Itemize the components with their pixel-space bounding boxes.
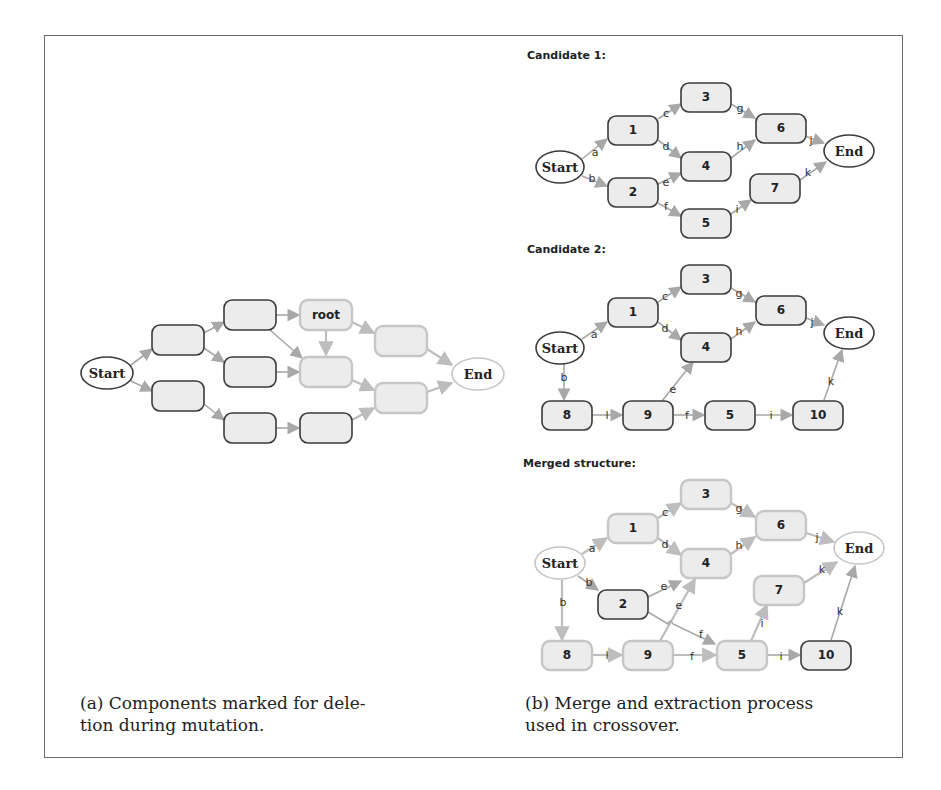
node-c2-marked: [300, 357, 352, 387]
c2-node-9-label: 9: [644, 408, 652, 422]
m-node-3-label: 3: [702, 487, 710, 501]
c1-node-2-label: 2: [629, 185, 637, 199]
svg-text:l: l: [605, 649, 608, 662]
svg-text:a: a: [592, 146, 599, 159]
svg-text:k: k: [837, 605, 844, 618]
svg-text:g: g: [737, 102, 744, 115]
m-node-9-label: 9: [644, 648, 652, 662]
svg-text:a: a: [589, 542, 596, 555]
candidate2-graph: Candidate 2: a b c d e l f i g h j k Sta…: [527, 243, 874, 430]
m-node-1-label: 1: [629, 521, 637, 535]
svg-text:e: e: [670, 383, 677, 396]
m-node-2-label: 2: [619, 597, 627, 611]
svg-text:j: j: [809, 316, 813, 329]
node-b1: [224, 300, 276, 330]
svg-text:j: j: [814, 531, 818, 544]
start-label: Start: [89, 366, 126, 381]
c1-node-1-label: 1: [629, 123, 637, 137]
svg-text:d: d: [662, 322, 669, 335]
svg-text:i: i: [735, 203, 738, 216]
c1-node-5-label: 5: [702, 216, 710, 230]
svg-text:b: b: [560, 596, 567, 609]
merged-graph: Merged structure: a b b c d e e f l f i …: [523, 457, 884, 670]
svg-text:h: h: [736, 539, 743, 552]
c2-node-10-label: 10: [810, 408, 827, 422]
candidate1-title: Candidate 1:: [527, 49, 606, 62]
svg-text:d: d: [663, 140, 670, 153]
node-a2: [152, 381, 204, 411]
node-b3: [224, 413, 276, 443]
caption-a-line1: (a) Components marked for dele-: [80, 692, 420, 714]
c2-start-label: Start: [542, 341, 579, 356]
caption-b-line2: used in crossover.: [525, 714, 885, 736]
candidate1-graph: Candidate 1: a b c d e f g h i j k Start…: [527, 49, 874, 238]
caption-a-line2: tion during mutation.: [80, 714, 420, 736]
node-b2: [224, 357, 276, 387]
svg-text:d: d: [662, 538, 669, 551]
svg-text:k: k: [828, 375, 835, 388]
m-end-label: End: [845, 541, 873, 556]
svg-text:e: e: [661, 580, 668, 593]
c1-node-3-label: 3: [702, 90, 710, 104]
svg-text:b: b: [561, 371, 568, 384]
svg-text:g: g: [736, 502, 743, 515]
c2-node-3-label: 3: [702, 272, 710, 286]
node-a1: [152, 325, 204, 355]
node-c3: [300, 413, 352, 443]
svg-text:h: h: [736, 325, 743, 338]
svg-text:k: k: [805, 166, 812, 179]
svg-text:h: h: [737, 140, 744, 153]
svg-text:i: i: [760, 617, 763, 630]
svg-text:b: b: [589, 172, 596, 185]
svg-text:e: e: [663, 176, 670, 189]
svg-text:l: l: [605, 409, 608, 422]
c2-node-1-label: 1: [629, 305, 637, 319]
node-d2-marked: [375, 383, 427, 413]
svg-text:a: a: [591, 328, 598, 341]
m-node-10-label: 10: [818, 648, 835, 662]
m-start-label: Start: [542, 556, 579, 571]
m-node-7-label: 7: [775, 583, 783, 597]
panel-a-graph: Start root End: [81, 300, 504, 443]
c1-end-label: End: [835, 144, 863, 159]
svg-text:k: k: [819, 563, 826, 576]
svg-text:g: g: [736, 287, 743, 300]
m-node-4-label: 4: [702, 556, 710, 570]
candidate2-title: Candidate 2:: [527, 243, 606, 256]
svg-text:b: b: [586, 576, 593, 589]
node-d1-marked: [375, 326, 427, 356]
root-label: root: [312, 308, 340, 322]
end-label: End: [464, 367, 492, 382]
m-node-5-label: 5: [738, 648, 746, 662]
svg-text:e: e: [676, 599, 683, 612]
c1-node-7-label: 7: [771, 181, 779, 195]
c2-end-label: End: [835, 326, 863, 341]
svg-text:i: i: [779, 650, 782, 663]
c2-node-8-label: 8: [563, 408, 571, 422]
caption-b-line1: (b) Merge and extraction process: [525, 692, 885, 714]
svg-text:c: c: [662, 506, 668, 519]
c1-node-6-label: 6: [777, 121, 785, 135]
c1-node-4-label: 4: [702, 159, 710, 173]
c1-start-label: Start: [542, 160, 579, 175]
caption-a: (a) Components marked for dele- tion dur…: [80, 692, 420, 736]
svg-text:c: c: [662, 290, 668, 303]
svg-text:j: j: [808, 134, 812, 147]
c2-node-5-label: 5: [726, 408, 734, 422]
caption-b: (b) Merge and extraction process used in…: [525, 692, 885, 736]
svg-text:f: f: [664, 200, 669, 213]
c2-node-6-label: 6: [777, 303, 785, 317]
m-node-8-label: 8: [563, 648, 571, 662]
svg-text:c: c: [663, 107, 669, 120]
figure-diagram: Start root End Candidate 1: a b c d e f …: [0, 0, 941, 790]
merged-title: Merged structure:: [523, 457, 636, 470]
c2-node-4-label: 4: [702, 340, 710, 354]
svg-text:i: i: [769, 409, 772, 422]
m-node-6-label: 6: [777, 518, 785, 532]
